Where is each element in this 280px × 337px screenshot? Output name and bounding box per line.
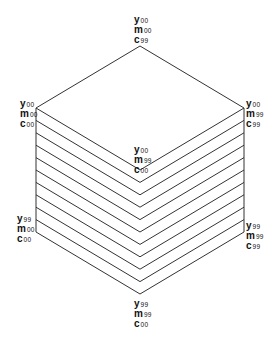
vertex-label-top: y00 m00 c99: [134, 14, 152, 44]
top-face: [36, 46, 244, 108]
vertex-label-center: y00 m99 c00: [134, 144, 152, 174]
slice-line: [36, 232, 244, 294]
vertex-label-upper-right: y00 m99 c99: [246, 98, 264, 128]
vertex-label-lower-right: y99 m99 c99: [246, 220, 264, 250]
slice-lines: [36, 108, 244, 294]
vertex-label-bottom: y99 m99 c00: [134, 298, 152, 328]
vertex-label-lower-left: y99 m00 c00: [17, 213, 35, 243]
vertex-label-upper-left: y00 m00 c00: [20, 98, 38, 128]
